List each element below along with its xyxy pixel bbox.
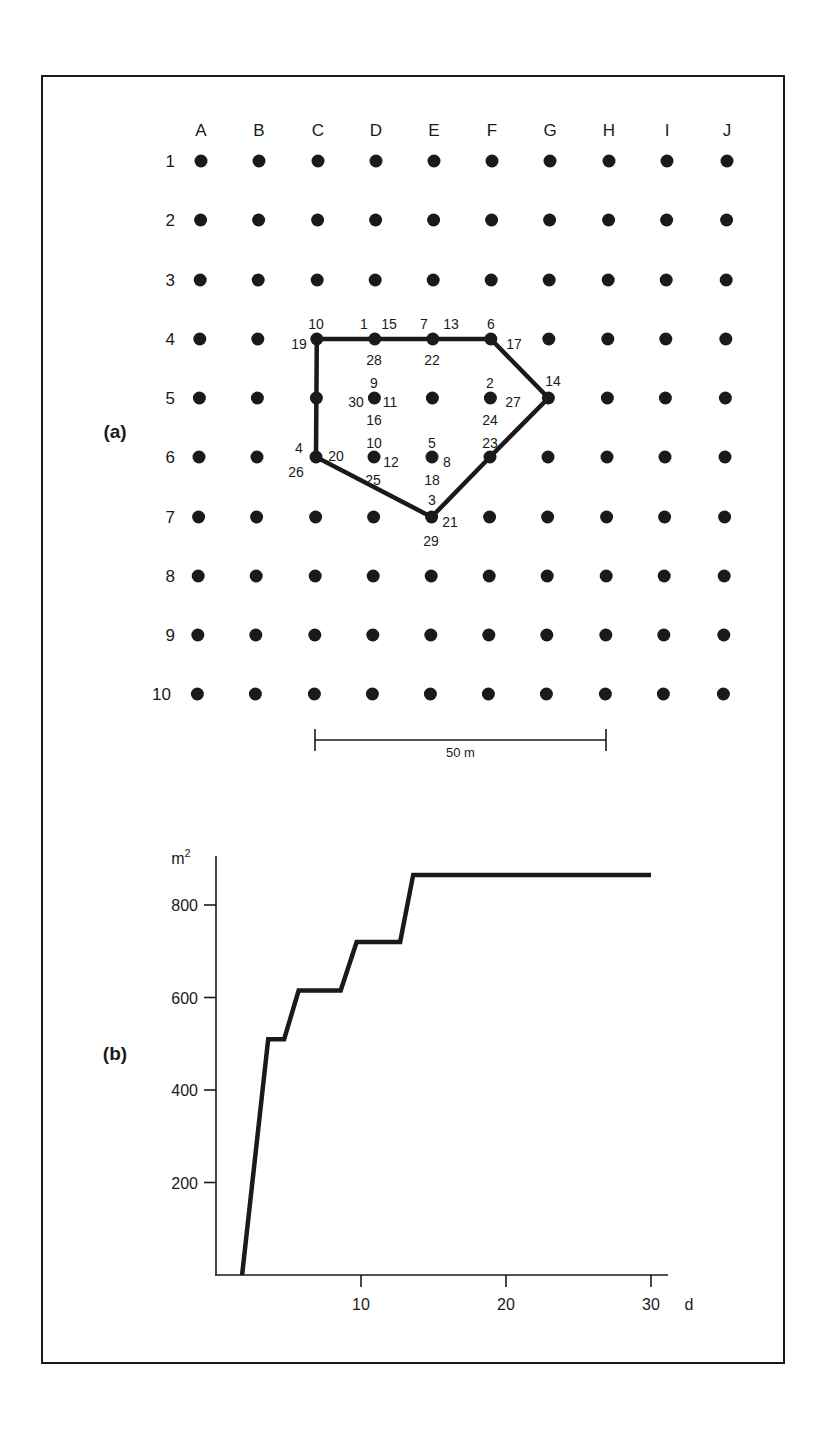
grid-dot-E1	[428, 155, 441, 168]
grid-dot-E10	[424, 688, 437, 701]
y-axis-ticks: 200400600800	[171, 897, 216, 1192]
column-label-d: D	[370, 121, 382, 140]
fix-label: 28	[366, 352, 382, 368]
x-tick-label: 30	[642, 1296, 660, 1313]
fix-label: 29	[423, 533, 439, 549]
fix-label: 17	[506, 336, 522, 352]
grid-dot-H10	[599, 688, 612, 701]
row-label-3: 3	[166, 271, 175, 290]
grid-dot-C6	[310, 451, 323, 464]
fix-label: 6	[487, 316, 495, 332]
grid-dot-H5	[601, 392, 614, 405]
grid-dot-H3	[602, 274, 615, 287]
grid-dot-A8	[192, 570, 205, 583]
grid-dot-I10	[657, 688, 670, 701]
grid-dot-I7	[658, 511, 671, 524]
grid-dot-J3	[720, 274, 733, 287]
grid-dot-I4	[659, 333, 672, 346]
grid-dot-G6	[542, 451, 555, 464]
scale-bar-label: 50 m	[446, 745, 475, 760]
grid-dot-J6	[719, 451, 732, 464]
column-label-f: F	[487, 121, 497, 140]
grid-dot-J2	[720, 214, 733, 227]
grid-dot-G3	[543, 274, 556, 287]
grid-dot-C10	[308, 688, 321, 701]
row-label-8: 8	[166, 567, 175, 586]
grid-dot-C4	[310, 333, 323, 346]
grid-dot-F2	[485, 214, 498, 227]
grid-dot-B1	[253, 155, 266, 168]
grid-dot-A7	[192, 511, 205, 524]
grid-dot-E7	[425, 511, 438, 524]
grid-dot-A3	[194, 274, 207, 287]
fix-label: 20	[328, 448, 344, 464]
grid-dot-I1	[661, 155, 674, 168]
fix-label: 24	[482, 412, 498, 428]
area-step-line	[242, 875, 651, 1275]
grid-dot-J1	[721, 155, 734, 168]
grid-dot-A10	[191, 688, 204, 701]
grid-dot-F5	[484, 392, 497, 405]
grid-dot-C5	[310, 392, 323, 405]
grid-dot-E4	[426, 333, 439, 346]
grid-dot-C1	[312, 155, 325, 168]
grid-dot-I9	[657, 629, 670, 642]
grid-dot-D8	[367, 570, 380, 583]
fix-label: 4	[295, 440, 303, 456]
fix-label: 1	[360, 316, 368, 332]
grid-dot-J9	[717, 629, 730, 642]
grid-dot-A2	[194, 214, 207, 227]
fix-label: 16	[366, 412, 382, 428]
grid-dot-G5	[542, 392, 555, 405]
grid-dot-D2	[369, 214, 382, 227]
grid-dot-H8	[600, 570, 613, 583]
grid-dot-J8	[718, 570, 731, 583]
fix-label: 10	[366, 435, 382, 451]
grid-dot-F3	[485, 274, 498, 287]
y-tick-label: 400	[171, 1082, 198, 1099]
grid-dot-E3	[427, 274, 440, 287]
grid-dot-D7	[367, 511, 380, 524]
column-label-i: I	[665, 121, 670, 140]
grid-dot-F1	[486, 155, 499, 168]
grid-dot-B6	[251, 451, 264, 464]
x-axis-unit-label: d	[685, 1296, 694, 1313]
grid-dot-A5	[193, 392, 206, 405]
grid-dot-H6	[601, 451, 614, 464]
grid-dot-G9	[540, 629, 553, 642]
grid-dot-F8	[483, 570, 496, 583]
y-tick-label: 200	[171, 1175, 198, 1192]
grid-dot-D5	[368, 392, 381, 405]
y-axis-unit-label: m2	[171, 847, 190, 867]
fix-label: 2	[486, 375, 494, 391]
row-label-6: 6	[166, 448, 175, 467]
fix-label: 9	[370, 375, 378, 391]
grid-dot-C2	[311, 214, 324, 227]
grid-dot-A9	[191, 629, 204, 642]
grid-dot-A4	[193, 333, 206, 346]
grid-dot-F9	[482, 629, 495, 642]
grid-dot-H1	[603, 155, 616, 168]
fix-label: 5	[428, 435, 436, 451]
fix-label: 8	[443, 454, 451, 470]
grid-dot-B7	[250, 511, 263, 524]
fix-label: 15	[381, 316, 397, 332]
figure-frame	[42, 76, 784, 1363]
column-labels: ABCDEFGHIJ	[195, 121, 731, 140]
grid-dot-D9	[366, 629, 379, 642]
grid-dot-C7	[309, 511, 322, 524]
panel-b-area-chart: (b) 200400600800 102030 m2 d	[103, 847, 694, 1313]
grid-dot-B10	[249, 688, 262, 701]
grid-dot-F6	[484, 451, 497, 464]
grid-dot-B9	[249, 629, 262, 642]
grid-dot-G4	[542, 333, 555, 346]
grid-dot-A6	[193, 451, 206, 464]
row-label-4: 4	[166, 330, 175, 349]
grid-dot-B5	[251, 392, 264, 405]
column-label-e: E	[428, 121, 439, 140]
fix-label: 14	[545, 373, 561, 389]
grid-dot-C3	[311, 274, 324, 287]
x-axis-ticks: 102030	[352, 1275, 660, 1313]
grid-dot-G8	[541, 570, 554, 583]
row-label-7: 7	[166, 508, 175, 527]
